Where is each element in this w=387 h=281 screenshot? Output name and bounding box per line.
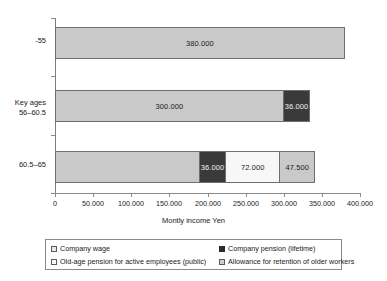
bar-segment-oldage: 72.000: [225, 151, 280, 183]
x-axis-tick: [208, 193, 209, 197]
category-label-1: Key ages 56–60.5: [0, 98, 46, 117]
bar-value-label: 36.000: [201, 163, 225, 172]
bar-segment-wage: 380.000: [55, 27, 345, 59]
legend-swatch-icon: [51, 259, 57, 265]
category-label-line: 56–60.5: [0, 108, 46, 118]
y-axis-tick: [51, 18, 55, 19]
legend: Company wage Old-age pension for active …: [45, 239, 342, 270]
legend-item-company-pension[interactable]: Company pension (lifetime): [219, 244, 316, 253]
legend-swatch-icon: [219, 259, 225, 265]
category-label-line: Key ages: [0, 98, 46, 108]
x-axis-tick-label: 150.000: [149, 199, 189, 208]
x-axis-tick-label: 250.000: [226, 199, 266, 208]
category-label-line: -55: [0, 36, 46, 46]
legend-swatch-icon: [219, 246, 225, 252]
x-axis-tick: [322, 193, 323, 197]
bar-1: 300.00036.000: [55, 90, 310, 122]
x-axis-tick-label: 50.000: [73, 199, 113, 208]
x-axis-tick: [131, 193, 132, 197]
category-label-2: 60.5–65: [0, 160, 46, 170]
y-axis-tick: [51, 76, 55, 77]
y-axis-tick: [51, 135, 55, 136]
bar-value-label: 36.000: [285, 102, 309, 111]
legend-label: Allowance for retention of older workers: [228, 257, 354, 266]
x-axis-tick: [169, 193, 170, 197]
x-axis-tick: [55, 193, 56, 197]
category-label-0: -55: [0, 36, 46, 46]
bar-segment-pension: 36.000: [199, 151, 226, 183]
bar-value-label: 47.500: [286, 163, 310, 172]
x-axis-tick: [93, 193, 94, 197]
legend-label: Old-age pension for active employees (pu…: [60, 257, 206, 266]
legend-item-company-wage[interactable]: Company wage: [51, 244, 110, 253]
x-axis-tick: [246, 193, 247, 197]
bar-2: 36.00072.00047.500: [55, 151, 315, 183]
x-axis-tick-label: 0: [35, 199, 75, 208]
x-axis-tick-label: 100.000: [111, 199, 151, 208]
x-axis-tick: [284, 193, 285, 197]
legend-item-old-age-pension[interactable]: Old-age pension for active employees (pu…: [51, 257, 206, 266]
bar-value-label: 72.000: [241, 163, 265, 172]
x-axis-tick-label: 350.000: [302, 199, 342, 208]
bar-segment-allow: 47.500: [279, 151, 315, 183]
x-axis-tick-label: 300.000: [264, 199, 304, 208]
x-axis-title: Montly income Yen: [0, 216, 387, 225]
category-label-line: 60.5–65: [0, 160, 46, 170]
bar-chart: 0 50.000 100.000 150.000 200.000 250.000…: [0, 0, 387, 281]
bar-value-label: 300.000: [155, 102, 183, 111]
x-axis-tick-label: 200.000: [188, 199, 228, 208]
x-axis-tick-label: 400.000: [340, 199, 380, 208]
bar-value-label: 380.000: [186, 39, 214, 48]
legend-item-allowance[interactable]: Allowance for retention of older workers: [219, 257, 354, 266]
bar-segment-wage: 300.000: [55, 90, 284, 122]
bar-0: 380.000: [55, 27, 345, 59]
legend-swatch-icon: [51, 246, 57, 252]
x-axis-tick: [360, 193, 361, 197]
legend-label: Company pension (lifetime): [228, 244, 316, 253]
bar-segment-wage: [55, 151, 200, 183]
legend-label: Company wage: [60, 244, 110, 253]
bar-segment-pension: 36.000: [283, 90, 310, 122]
